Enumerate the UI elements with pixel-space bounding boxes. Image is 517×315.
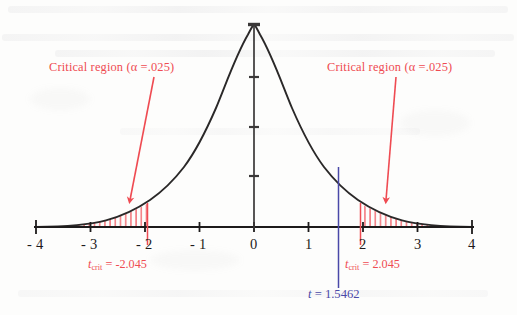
left-critical-region-shading [36,150,148,228]
x-tick-label-2: 2 [359,237,367,252]
left-annotation-arrow [130,77,154,200]
x-tick-label-neg1: - 1 [190,237,207,252]
test-statistic-label: t = 1.5462 [308,288,360,301]
right-critical-region-label: Critical region (α =.025) [327,61,452,73]
x-tick-label-4: 4 [468,237,476,252]
x-tick-label-0: 0 [250,237,258,252]
right-annotation-arrow [386,77,396,200]
x-tick-label-3: 3 [414,237,422,252]
tcrit-upper-label: tcrit = 2.045 [345,258,400,272]
tcrit-lower-label: tcrit = -2.045 [88,258,147,272]
x-tick-label-1: 1 [305,237,313,252]
right-critical-region-shading [360,150,473,228]
x-tick-label-neg2: - 2 [136,237,153,252]
left-critical-region-label: Critical region (α =.025) [49,61,174,73]
figure-canvas: Critical region (α =.025) Critical regio… [0,0,517,315]
t-distribution-plot [0,0,517,315]
x-tick-label-neg4: - 4 [27,237,44,252]
x-tick-label-neg3: - 3 [81,237,98,252]
